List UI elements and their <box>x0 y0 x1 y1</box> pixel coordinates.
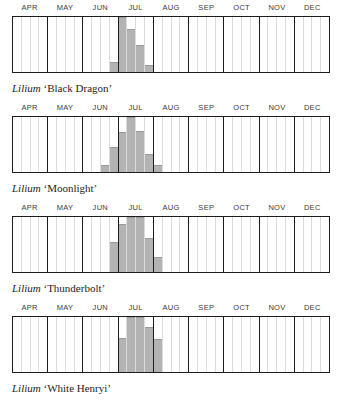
week-cell <box>110 117 118 172</box>
bloom-bar <box>101 165 109 172</box>
week-cell <box>233 117 242 172</box>
week-cell <box>75 317 83 372</box>
plot-area <box>12 316 330 373</box>
week-cell <box>268 17 277 72</box>
week-cell <box>31 117 40 172</box>
month-label-jul: JUL <box>118 200 153 216</box>
month-label-sep: SEP <box>189 300 224 316</box>
week-cell <box>66 317 75 372</box>
month-axis: APRMAYJUNJULAUGSEPOCTNOVDEC <box>12 0 330 16</box>
week-cell <box>268 217 277 272</box>
week-cell <box>119 117 128 172</box>
week-cell <box>83 317 92 372</box>
week-cell <box>242 117 251 172</box>
week-cell <box>92 217 101 272</box>
bloom-chart-2: APRMAYJUNJULAUGSEPOCTNOVDECLilium ‘Moonl… <box>12 100 330 200</box>
week-cell <box>251 317 259 372</box>
week-cell <box>57 17 66 72</box>
bloom-bar <box>110 242 118 272</box>
month-cell-apr <box>13 217 48 272</box>
week-cell <box>57 117 66 172</box>
week-cell <box>145 117 153 172</box>
month-label-apr: APR <box>12 100 47 116</box>
caption-genus: Lilium <box>12 82 41 94</box>
month-label-jul: JUL <box>118 300 153 316</box>
week-cell <box>295 317 304 372</box>
week-cell <box>242 217 251 272</box>
week-cell <box>163 117 172 172</box>
week-cell <box>260 317 269 372</box>
week-cell <box>75 117 83 172</box>
bloom-bar <box>110 62 118 72</box>
month-label-oct: OCT <box>224 200 259 216</box>
month-cell-aug <box>154 217 189 272</box>
week-cell <box>101 117 110 172</box>
month-cell-oct <box>224 217 259 272</box>
week-cell <box>163 217 172 272</box>
week-cell <box>92 317 101 372</box>
week-cell <box>189 117 198 172</box>
caption-cultivar: ‘Thunderbolt’ <box>43 282 105 294</box>
week-cell <box>154 17 163 72</box>
bloom-bar <box>127 317 135 372</box>
month-label-sep: SEP <box>189 0 224 16</box>
week-cell <box>31 317 40 372</box>
week-cell <box>13 217 22 272</box>
month-cell-nov <box>260 217 295 272</box>
caption-cultivar: ‘Moonlight’ <box>43 182 97 194</box>
month-label-oct: OCT <box>224 300 259 316</box>
week-cell <box>127 317 136 372</box>
month-cell-sep <box>189 117 224 172</box>
week-cell <box>39 317 47 372</box>
week-cell <box>145 217 153 272</box>
week-cell <box>119 317 128 372</box>
week-cell <box>295 117 304 172</box>
week-cell <box>22 17 31 72</box>
month-label-dec: DEC <box>295 200 330 216</box>
week-cell <box>207 317 216 372</box>
week-cell <box>233 317 242 372</box>
caption-genus: Lilium <box>12 182 41 194</box>
week-cell <box>286 217 294 272</box>
month-cell-apr <box>13 317 48 372</box>
bloom-chart-1: APRMAYJUNJULAUGSEPOCTNOVDECLilium ‘Black… <box>12 0 330 100</box>
month-label-jun: JUN <box>83 200 118 216</box>
week-cell <box>13 317 22 372</box>
week-cell <box>321 217 329 272</box>
week-cell <box>119 217 128 272</box>
week-cell <box>83 217 92 272</box>
week-cell <box>216 217 224 272</box>
week-cell <box>286 17 294 72</box>
bloom-bar <box>145 238 153 272</box>
month-label-oct: OCT <box>224 0 259 16</box>
month-label-sep: SEP <box>189 200 224 216</box>
month-cell-aug <box>154 317 189 372</box>
week-cell <box>198 217 207 272</box>
week-cell <box>31 217 40 272</box>
bloom-bar <box>119 224 127 272</box>
bloom-bar <box>154 339 162 372</box>
week-cell <box>277 17 286 72</box>
week-cell <box>207 117 216 172</box>
bloom-bar <box>127 217 135 272</box>
week-cell <box>75 17 83 72</box>
month-label-jul: JUL <box>118 100 153 116</box>
month-label-nov: NOV <box>259 200 294 216</box>
week-cell <box>224 217 233 272</box>
plot-area <box>12 16 330 73</box>
month-label-may: MAY <box>47 100 82 116</box>
bloom-bar <box>119 132 127 172</box>
month-cell-jul <box>119 317 154 372</box>
week-cell <box>180 117 188 172</box>
month-cell-aug <box>154 117 189 172</box>
month-cell-apr <box>13 17 48 72</box>
week-cell <box>154 217 163 272</box>
month-cell-jun <box>83 117 118 172</box>
week-cell <box>101 217 110 272</box>
week-cell <box>110 317 118 372</box>
week-cell <box>251 117 259 172</box>
week-cell <box>48 117 57 172</box>
plot-area <box>12 116 330 173</box>
month-label-aug: AUG <box>153 0 188 16</box>
plot-area <box>12 216 330 273</box>
